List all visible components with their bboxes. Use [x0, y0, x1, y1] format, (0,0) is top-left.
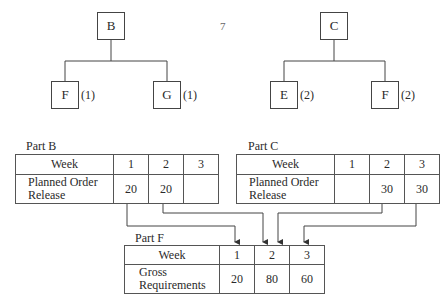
node-label: E — [280, 87, 288, 103]
row-label: GrossRequirements — [125, 265, 220, 294]
node-label: C — [330, 18, 339, 34]
week-cell: 3 — [184, 155, 219, 175]
value-cell: 30 — [405, 175, 440, 204]
row-label-line: Release — [28, 188, 65, 202]
quantity-label: (1) — [183, 88, 197, 103]
week-cell: 3 — [405, 155, 440, 175]
row-label-line: Requirements — [139, 278, 206, 292]
table-title-part-c: Part C — [248, 139, 278, 154]
row-label-line: Gross — [139, 265, 167, 279]
row-label-line: Planned Order — [28, 175, 98, 189]
table-part-f: Week 1 2 3 GrossRequirements 20 80 60 — [124, 245, 325, 294]
value-cell: 80 — [255, 265, 290, 294]
header-cell: Week — [237, 155, 335, 175]
quantity-label: (1) — [81, 88, 95, 103]
value-cell: 30 — [370, 175, 405, 204]
row-label-line: Planned Order — [249, 175, 319, 189]
value-cell: 60 — [290, 265, 325, 294]
value-cell: 20 — [149, 175, 184, 204]
tree-node-f-under-c: F — [371, 81, 399, 109]
week-cell: 1 — [220, 246, 255, 265]
tree-node-e: E — [270, 81, 298, 109]
tree-node-b: B — [97, 12, 125, 40]
node-label: F — [61, 87, 68, 103]
week-cell: 1 — [114, 155, 149, 175]
table-title-part-f: Part F — [135, 231, 164, 246]
week-cell: 2 — [149, 155, 184, 175]
tree-node-f-under-b: F — [51, 81, 79, 109]
tree-node-c: C — [320, 12, 348, 40]
node-label: G — [162, 87, 171, 103]
header-cell: Week — [16, 155, 114, 175]
header-cell: Week — [125, 246, 220, 265]
table-part-c: Week 1 2 3 Planned OrderRelease 30 30 — [236, 154, 440, 204]
quantity-label: (2) — [401, 88, 415, 103]
node-label: B — [107, 18, 116, 34]
tree-node-g: G — [153, 81, 181, 109]
value-cell — [184, 175, 219, 204]
week-cell: 2 — [255, 246, 290, 265]
row-label: Planned OrderRelease — [237, 175, 335, 204]
node-label: F — [381, 87, 388, 103]
stray-mark: 7 — [220, 20, 226, 32]
value-cell: 20 — [220, 265, 255, 294]
table-title-part-b: Part B — [26, 139, 56, 154]
week-cell: 3 — [290, 246, 325, 265]
quantity-label: (2) — [300, 88, 314, 103]
week-cell: 2 — [370, 155, 405, 175]
value-cell: 20 — [114, 175, 149, 204]
table-part-b: Week 1 2 3 Planned OrderRelease 20 20 — [15, 154, 219, 204]
row-label: Planned OrderRelease — [16, 175, 114, 204]
week-cell: 1 — [335, 155, 370, 175]
value-cell — [335, 175, 370, 204]
row-label-line: Release — [249, 188, 286, 202]
